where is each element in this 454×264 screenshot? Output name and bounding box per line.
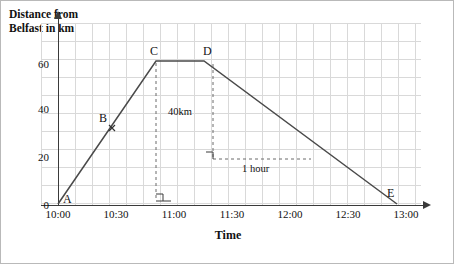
horizontal-run-annotation: 1 hour bbox=[242, 164, 269, 175]
x-axis-title: Time bbox=[1, 228, 454, 243]
right-angle-marker-triangle bbox=[206, 152, 213, 159]
vertical-drop-annotation: 40km bbox=[168, 107, 192, 118]
right-angle-marker-axis bbox=[156, 194, 163, 201]
chart-plot-area bbox=[1, 1, 454, 264]
point-label-d: D bbox=[203, 45, 212, 57]
point-label-b: B bbox=[99, 112, 107, 124]
point-label-e: E bbox=[387, 187, 394, 199]
chart-figure: Distance from Belfast in km bbox=[0, 0, 454, 264]
journey-line bbox=[58, 61, 397, 204]
point-label-a: A bbox=[63, 193, 72, 205]
point-label-c: C bbox=[150, 45, 158, 57]
